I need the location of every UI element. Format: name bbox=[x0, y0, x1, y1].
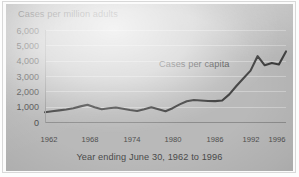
series-cases-per-capita bbox=[45, 30, 286, 122]
y-axis-title: Cases per million adults bbox=[18, 9, 118, 19]
y-axis-tick-label: 4,000 bbox=[6, 56, 39, 66]
y-axis-tick-label: 2,000 bbox=[6, 87, 39, 97]
x-axis-tick-label: 1986 bbox=[202, 135, 228, 144]
x-axis-tick-label: 1992 bbox=[238, 135, 264, 144]
chart-panel: Cases per million adults 6,000 5,000 4,0… bbox=[6, 4, 293, 171]
chart-figure: Cases per million adults 6,000 5,000 4,0… bbox=[0, 0, 299, 177]
y-axis-tick-label: 5,000 bbox=[6, 41, 39, 51]
y-axis-line bbox=[45, 30, 46, 123]
plot-area bbox=[45, 30, 286, 122]
y-axis-tick-label: 6,000 bbox=[6, 26, 39, 36]
x-axis-tick-label: 1968 bbox=[77, 135, 103, 144]
x-axis-tick-label: 1974 bbox=[119, 135, 145, 144]
series-annotation-label: Cases per capita bbox=[159, 59, 230, 69]
x-axis-tick-label: 1996 bbox=[264, 135, 290, 144]
x-axis-tick-label: 1962 bbox=[36, 135, 62, 144]
y-axis-tick-label: 0 bbox=[6, 118, 39, 128]
x-axis-tick-label: 1980 bbox=[160, 135, 186, 144]
x-axis-title: Year ending June 30, 1962 to 1996 bbox=[6, 152, 293, 162]
gridline-zero-baseline bbox=[45, 122, 286, 123]
y-axis-tick-label: 1,000 bbox=[6, 102, 39, 112]
y-axis-tick-label: 3,000 bbox=[6, 72, 39, 82]
